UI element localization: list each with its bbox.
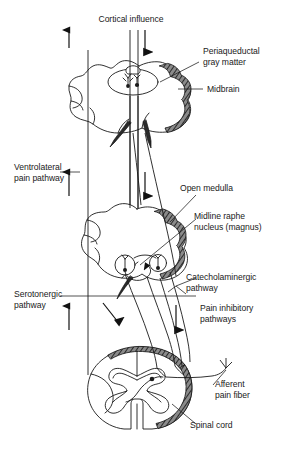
label-periaqueductal-gray-matter: Periaqueductal gray matter	[203, 46, 291, 67]
label-afferent-pain-fiber: Afferent pain fiber	[215, 379, 289, 400]
label-spinal-cord: Spinal cord	[190, 420, 280, 431]
label-open-medulla: Open medulla	[180, 183, 260, 194]
label-ventrolateral-pain-pathway: Ventrolateral pain pathway	[14, 162, 84, 183]
pain-pathway-figure: Cortical influence Periaqueductal gray m…	[0, 0, 291, 451]
label-catecholaminergic-pathway: Catecholaminergic pathway	[186, 272, 290, 293]
oblique-arrow	[103, 303, 118, 322]
fiber-mid-upper	[133, 133, 141, 205]
label-midbrain: Midbrain	[207, 84, 277, 95]
label-midline-raphe-nucleus: Midline raphe nucleus (magnus)	[194, 211, 290, 232]
label-pain-inhibitory-pathways: Pain inhibitory pathways	[200, 303, 290, 324]
leader-open-medulla	[170, 195, 196, 222]
label-cortical-influence: Cortical influence	[76, 14, 186, 25]
label-serotonergic-pathway: Serotonergic pathway	[14, 289, 90, 310]
